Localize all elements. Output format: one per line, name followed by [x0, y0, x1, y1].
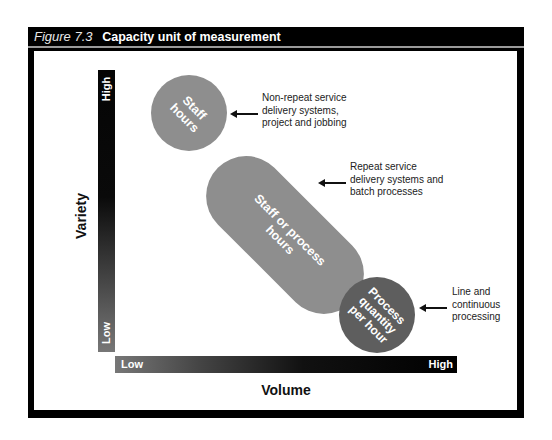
arrow-left-icon [236, 113, 258, 115]
volume-low-label: Low [121, 356, 143, 373]
variety-axis-bar [98, 70, 115, 352]
figure-title: Capacity unit of measurement [102, 30, 281, 44]
staff-hours-label: Staff hours [167, 91, 211, 135]
staff-or-process-hours-label: Staff or process hours [241, 191, 328, 278]
process-quantity-circle: Process quantity per hour [339, 277, 415, 353]
diagram-area: High Low Variety Low High Volume Staff h… [34, 51, 517, 410]
figure-number: Figure 7.3 [34, 29, 93, 44]
variety-high-label-box: High [98, 73, 115, 107]
variety-high-label: High [100, 72, 112, 106]
note-repeat: Repeat service delivery systems and batc… [350, 161, 443, 199]
variety-low-label: Low [100, 318, 112, 348]
figure-header: Figure 7.3 Capacity unit of measurement [28, 27, 524, 46]
variety-axis-title: Variety [73, 186, 91, 246]
header-divider [28, 46, 524, 48]
staff-hours-circle: Staff hours [151, 75, 227, 151]
process-quantity-label: Process quantity per hour [346, 284, 408, 346]
note-line-continuous: Line and continuous processing [452, 286, 500, 324]
figure-frame: Figure 7.3 Capacity unit of measurement … [28, 27, 524, 418]
note-non-repeat: Non-repeat service delivery systems, pro… [262, 92, 347, 130]
volume-axis-title: Volume [256, 382, 316, 398]
volume-high-label: High [429, 356, 453, 373]
volume-axis-bar: Low High [115, 356, 457, 373]
arrow-left-icon [425, 307, 447, 309]
variety-low-label-box: Low [98, 319, 115, 349]
arrow-left-icon [324, 182, 346, 184]
